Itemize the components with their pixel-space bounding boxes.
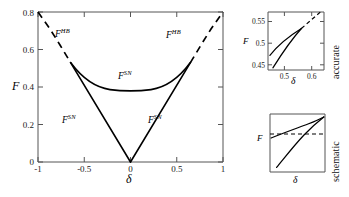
xtick-0: -1 [34, 164, 42, 174]
schematic-curve-upper [271, 117, 324, 138]
accurate-curve-upper [270, 29, 302, 56]
xtick-3: 0.5 [171, 164, 183, 174]
label-fhb-right: FHB [166, 28, 181, 40]
schematic-xlabel: δ [293, 175, 297, 185]
main-xlabel: δ [126, 172, 132, 187]
main-plot-svg: 0 0.2 0.4 0.6 0.8 -1 -0.5 0 0.5 1 [0, 0, 236, 197]
accurate-y-ticklabels: 0.45 0.5 0.55 [252, 17, 265, 69]
main-ylabel: F [12, 79, 19, 94]
accurate-xtick-1: 0.6 [307, 72, 317, 81]
schematic-inset-panel: F δ schematic [236, 100, 349, 197]
delta-glyph-accurate: δ [291, 76, 295, 86]
delta-glyph-schematic: δ [293, 175, 297, 185]
xtick-1: -0.5 [77, 164, 92, 174]
schematic-curve-lower [277, 117, 324, 167]
main-panel: F δ FHB FHB FSN FSN FSN [0, 0, 236, 197]
label-fhb-right-sup: HB [172, 28, 181, 35]
accurate-x-ticklabels: 0.5 0.6 [280, 72, 317, 81]
accurate-x-ticks [284, 12, 311, 70]
accurate-curve-lower [273, 29, 302, 68]
main-y-ticklabels: 0 0.2 0.4 0.6 0.8 [23, 8, 35, 167]
accurate-caption: accurate [330, 7, 341, 79]
schematic-caption: schematic [330, 106, 341, 182]
accurate-ytick-1: 0.5 [256, 39, 266, 48]
figure-root: F δ FHB FHB FSN FSN FSN [0, 0, 349, 197]
accurate-y-ticks [268, 22, 324, 65]
label-fsn-top: FSN [118, 69, 132, 81]
ytick-4: 0.8 [23, 8, 35, 18]
accurate-inset-panel: F δ accurate [236, 0, 349, 97]
accurate-xtick-0: 0.5 [280, 72, 290, 81]
label-fsn-left: FSN [62, 113, 76, 125]
xtick-4: 1 [221, 164, 226, 174]
accurate-ytick-0: 0.45 [252, 61, 265, 70]
curve-fhb-right [190, 12, 223, 63]
ytick-1: 0.2 [23, 120, 34, 130]
label-fhb-left: FHB [55, 27, 70, 39]
label-fsn-left-sup: SN [68, 113, 76, 120]
label-fsn-right-sup: SN [154, 113, 162, 120]
label-fsn-top-sup: SN [124, 69, 132, 76]
accurate-xlabel: δ [291, 76, 295, 86]
accurate-ytick-2: 0.55 [252, 17, 265, 26]
ytick-3: 0.6 [23, 45, 35, 55]
schematic-ylabel: F [257, 133, 263, 143]
accurate-ylabel: F [243, 36, 249, 46]
label-fsn-right: FSN [148, 113, 162, 125]
delta-glyph: δ [126, 172, 132, 186]
label-fhb-left-sup: HB [61, 27, 70, 34]
ytick-2: 0.4 [23, 82, 35, 92]
